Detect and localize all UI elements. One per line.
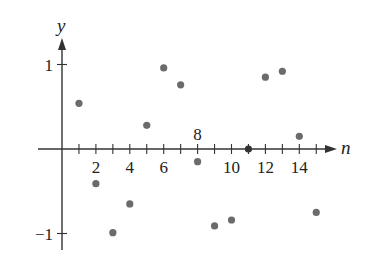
x-tick-label: 8 (193, 125, 202, 144)
data-point (245, 145, 252, 152)
data-point (92, 180, 99, 187)
data-point (228, 216, 235, 223)
x-axis-label: n (341, 137, 351, 158)
y-tick-label: 1 (45, 56, 54, 75)
x-tick-label: 12 (257, 158, 274, 177)
data-point (194, 158, 201, 165)
data-point (75, 100, 82, 107)
data-point (160, 64, 167, 71)
data-point (126, 200, 133, 207)
x-tick-label: 4 (126, 158, 135, 177)
data-point (211, 222, 218, 229)
x-axis-arrow-icon (325, 145, 337, 153)
data-point (296, 133, 303, 140)
axes (38, 38, 337, 250)
x-tick-label: 6 (159, 158, 168, 177)
scatter-plot: 24681012141−1 n y (0, 0, 377, 256)
x-tick-label: 2 (92, 158, 101, 177)
data-point (279, 68, 286, 75)
y-tick-label: −1 (35, 225, 53, 244)
y-axis-label: y (55, 15, 66, 36)
y-axis-arrow-icon (58, 38, 66, 50)
data-point (313, 209, 320, 216)
x-tick-label: 10 (223, 158, 240, 177)
data-point (109, 229, 116, 236)
x-tick-label: 14 (291, 158, 309, 177)
data-point (143, 122, 150, 129)
data-point (262, 74, 269, 81)
data-point (177, 81, 184, 88)
